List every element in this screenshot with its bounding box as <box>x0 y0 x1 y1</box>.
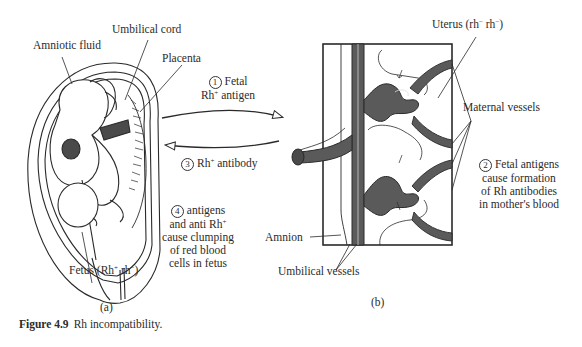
step-3-number-badge: 3 <box>181 158 194 171</box>
arrow-antibody-to-fetus <box>166 141 279 148</box>
umbilical-vessels-label: Umbilical vessels <box>278 265 359 278</box>
amnion-label: Amnion <box>265 231 303 244</box>
step-4-number-badge: 4 <box>171 205 184 218</box>
step-3-label: 3Rh+ antibody <box>181 157 258 171</box>
figure-number: Figure 4.9 <box>19 318 69 330</box>
step-4-label: 4antigens and anti Rh+ cause clumping of… <box>156 204 240 270</box>
step-2-label: 2Fetal antigens cause formation of Rh an… <box>462 158 576 211</box>
panel-b-sublabel: (b) <box>371 296 384 309</box>
step-1-number-badge: 1 <box>209 76 222 89</box>
maternal-vessels-label: Maternal vessels <box>463 101 540 114</box>
fetus-label: Fetus (Rh+ rh−) <box>69 264 138 277</box>
figure-caption-text: Rh incompatibility. <box>74 318 163 330</box>
arrow-fetal-antigen-to-mother <box>162 110 282 118</box>
umbilical-cord-label: Umbilical cord <box>112 23 181 36</box>
step-1-label: 1Fetal Rh+ antigen <box>193 75 263 102</box>
amniotic-fluid-label: Amniotic fluid <box>33 39 101 52</box>
uterus-label: Uterus (rh− rh−) <box>432 18 503 31</box>
panel-a-sublabel: (a) <box>100 301 113 314</box>
figure-caption: Figure 4.9Rh incompatibility. <box>19 318 162 330</box>
placental-detail-illustration <box>292 44 452 245</box>
placenta-label: Placenta <box>162 52 201 65</box>
step-2-number-badge: 2 <box>479 159 492 172</box>
